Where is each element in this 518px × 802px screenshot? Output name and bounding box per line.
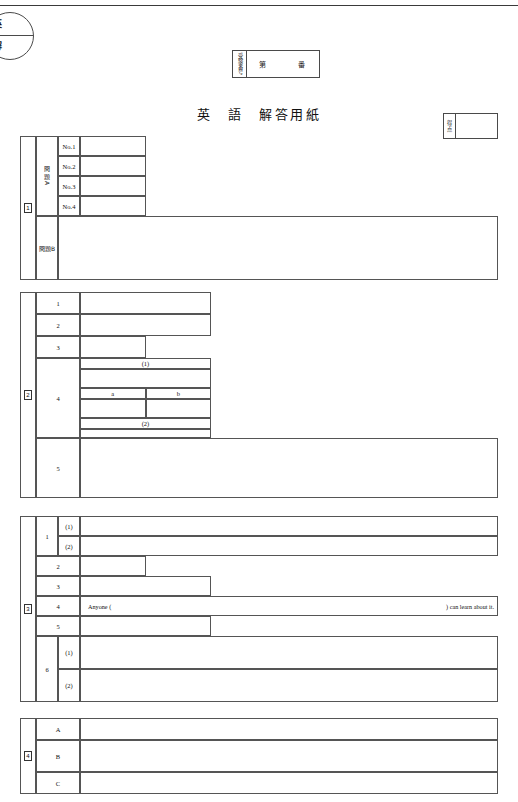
q2-row4-sub1-header (80, 358, 211, 369)
exam-number-box[interactable]: 受験番号 第 番 (232, 50, 320, 78)
answer-sheet-page: 英 解 受験番号 第 番 英 語 解答用紙 得 点 1 問題A No.1 (0, 0, 518, 802)
q3-row6-sub1-answer[interactable] (80, 636, 498, 669)
q3-row6-sub1-label (58, 636, 80, 669)
q3-row6-sub2-answer[interactable] (80, 669, 498, 702)
q2-row4-a-answer[interactable] (80, 399, 146, 418)
q1-a-row-label-2 (58, 156, 80, 176)
q3-row-label-6 (36, 636, 58, 702)
q3-row1-sub1-label (58, 516, 80, 536)
q2-answer-1[interactable] (80, 292, 211, 314)
q2-row4-sub2-answer[interactable] (80, 429, 211, 438)
exam-number-label: 受験番号 (233, 51, 247, 77)
q3-marker-text: 3 (24, 604, 33, 614)
q4-row-label-a (36, 718, 80, 740)
q1-a-row-label-3 (58, 176, 80, 196)
q1-a-answer-2[interactable] (80, 156, 146, 176)
q4-answer-b[interactable] (80, 740, 498, 772)
q2-row4-a-header (80, 388, 146, 399)
q2-row4-sub1-answer[interactable] (80, 369, 211, 388)
q4-row-label-b (36, 740, 80, 772)
score-label: 得 点 (444, 114, 456, 138)
corner-subject-stamp: 英 解 (0, 12, 34, 60)
q3-row-label-2 (36, 556, 80, 576)
q1-marker-text: 1 (24, 203, 33, 213)
q4-row-label-c (36, 772, 80, 794)
question-3-block: 3 1 (1) (2) 2 3 4 Anyone ( ) can learn a… (20, 516, 498, 702)
q3-row-label-4 (36, 596, 80, 616)
q3-row-label-1 (36, 516, 58, 556)
q3-answer-5[interactable] (80, 616, 211, 636)
q2-marker-text: 2 (24, 390, 33, 400)
exam-number-prefix: 第 (259, 59, 266, 69)
q2-answer-2[interactable] (80, 314, 211, 336)
q3-row4-prompt-right: ) can learn about it. (446, 603, 494, 610)
q4-answer-c[interactable] (80, 772, 498, 794)
q2-row4-b-header (146, 388, 212, 399)
q3-answer-4[interactable] (80, 596, 498, 616)
q4-marker-label: 4 (20, 748, 36, 764)
exam-number-label-text: 受験番号 (237, 53, 242, 74)
q3-row6-sub2-label (58, 669, 80, 702)
q4-marker-text: 4 (24, 751, 33, 761)
q2-marker-label: 2 (20, 387, 36, 403)
q1-a-answer-3[interactable] (80, 176, 146, 196)
q3-marker-label: 3 (20, 601, 36, 617)
q2-answer-3[interactable] (80, 336, 146, 358)
q2-row-label-3 (36, 336, 80, 358)
q1-a-answer-4[interactable] (80, 196, 146, 216)
q1-a-answer-1[interactable] (80, 136, 146, 156)
q1-b-answer[interactable] (58, 216, 498, 280)
q2-row-label-2 (36, 314, 80, 336)
question-2-block: 2 1 2 3 4 (1) a b (2) 5 (20, 292, 498, 498)
q1-a-row-label-4 (58, 196, 80, 216)
stamp-divider (0, 35, 33, 36)
stamp-char-top: 英 (0, 17, 5, 30)
q2-row-label-1 (36, 292, 80, 314)
question-1-block: 1 問題A No.1 No.2 No.3 No.4 問題B (20, 136, 498, 280)
q2-answer-5[interactable] (80, 438, 498, 498)
q3-row1-sub1-answer[interactable] (80, 516, 498, 536)
top-rule (0, 5, 518, 6)
q3-row1-sub2-answer[interactable] (80, 536, 498, 556)
q4-answer-a[interactable] (80, 718, 498, 740)
q1-groupA-label-cell (36, 136, 58, 216)
stamp-char-bottom: 解 (0, 39, 5, 52)
sheet-title: 英 語 解答用紙 (0, 104, 518, 123)
exam-number-suffix: 番 (298, 59, 305, 69)
q2-row4-b-answer[interactable] (146, 399, 212, 418)
q3-row-label-5 (36, 616, 80, 636)
score-label-char-2: 点 (447, 126, 452, 133)
q1-groupB-label-cell (36, 216, 58, 280)
q3-row-label-3 (36, 576, 80, 596)
q3-row1-sub2-label (58, 536, 80, 556)
q3-answer-2[interactable] (80, 556, 146, 576)
q3-row4-prompt-left: Anyone ( (88, 603, 111, 610)
question-4-block: 4 A B C (20, 718, 498, 794)
q2-row-label-5 (36, 438, 80, 498)
q3-answer-3[interactable] (80, 576, 211, 596)
q2-row-label-4 (36, 358, 80, 438)
q2-row4-sub2-header (80, 418, 211, 429)
q1-marker-label: 1 (20, 200, 36, 216)
q1-a-row-label-1 (58, 136, 80, 156)
